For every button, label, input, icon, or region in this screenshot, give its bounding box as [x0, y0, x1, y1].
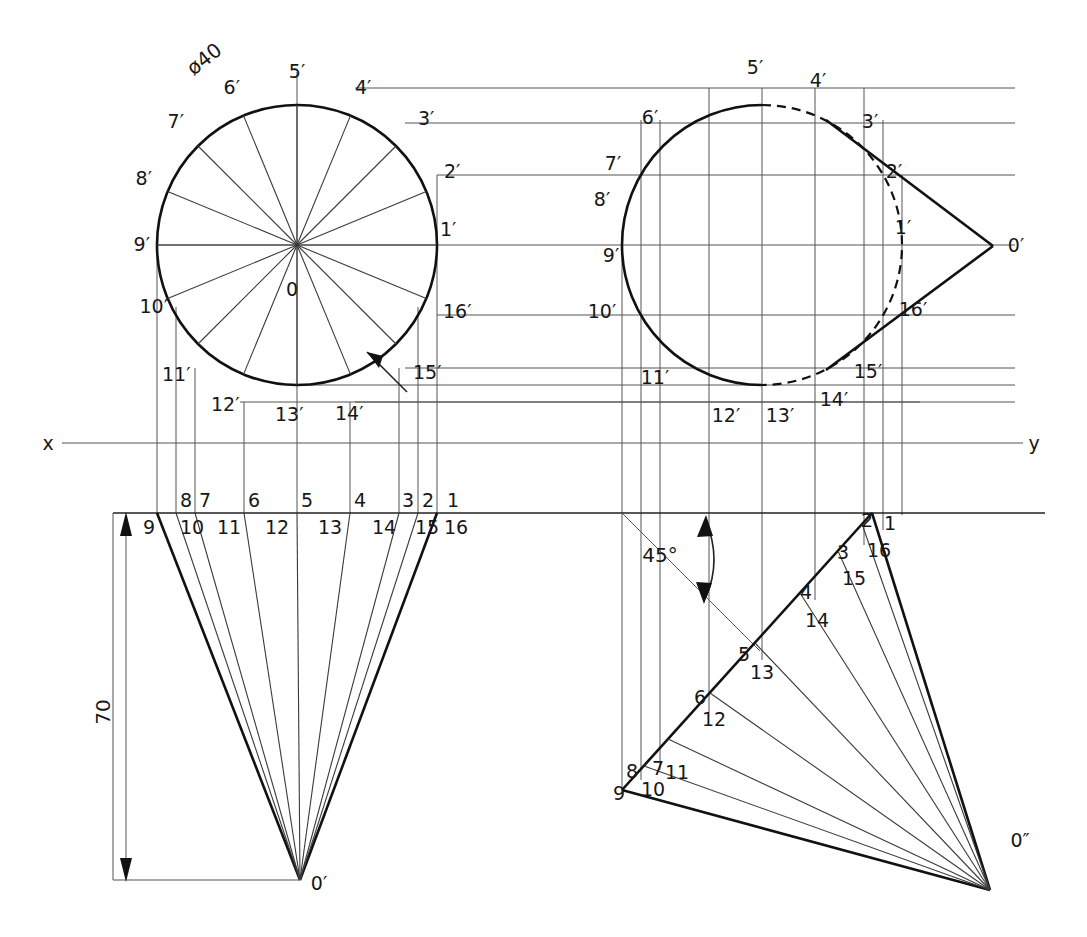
point-label: 13′ — [766, 404, 795, 426]
diameter-label: ø40 — [182, 38, 226, 80]
point-label: 11 — [665, 761, 689, 783]
point-label: 14 — [805, 609, 829, 631]
point-label: 11′ — [641, 366, 670, 388]
point-label: 15 — [842, 567, 866, 589]
front-generators — [176, 513, 418, 880]
point-label: 2 — [422, 489, 434, 511]
point-label: 8 — [626, 760, 638, 782]
point-label: 10′ — [140, 295, 169, 317]
point-label: 11′ — [162, 363, 191, 385]
labels-layer: ø40 70 45° x y 0 0′ 0′ 0″ 1′ 2′ 3′ 4′ 5′… — [42, 38, 1039, 894]
top-view-point-labels: 1′ 2′ 3′ 4′ 5′ 6′ 7′ 8′ 9′ 10′ 11′ 12′ 1… — [134, 60, 472, 425]
point-label: 12 — [265, 516, 289, 538]
point-label: 3′ — [418, 107, 434, 129]
drawing-sheet: ø40 70 45° x y 0 0′ 0′ 0″ 1′ 2′ 3′ 4′ 5′… — [0, 0, 1087, 937]
y-axis-label: y — [1028, 432, 1039, 454]
point-label: 1 — [447, 489, 459, 511]
x-axis-label: x — [42, 432, 53, 454]
point-label: 1 — [884, 512, 896, 534]
point-label: 4 — [800, 581, 812, 603]
point-label: 12′ — [211, 393, 240, 415]
radial-generators — [157, 105, 437, 385]
top-view-circle — [157, 105, 437, 392]
point-label: 3′ — [862, 110, 878, 132]
point-label: 1′ — [895, 216, 911, 238]
point-label: 9′ — [134, 233, 150, 255]
technical-drawing-canvas: ø40 70 45° x y 0 0′ 0′ 0″ 1′ 2′ 3′ 4′ 5′… — [0, 0, 1087, 937]
point-label: 6 — [248, 489, 260, 511]
point-label: 6′ — [642, 106, 658, 128]
point-label: 13 — [318, 516, 342, 538]
angle-45-indicator — [696, 515, 714, 604]
angle-45-label: 45° — [642, 543, 677, 567]
point-label: 14 — [372, 516, 396, 538]
point-label: 9 — [613, 782, 625, 804]
point-label: 7′ — [605, 152, 621, 174]
auxiliary-view-cone — [622, 513, 990, 890]
front-view-bottom-labels: 9 10 11 12 13 14 15 16 — [143, 516, 468, 538]
point-label: 16′ — [443, 300, 472, 322]
point-label: 16 — [444, 516, 468, 538]
point-label: 5′ — [747, 56, 763, 78]
point-label: 7′ — [168, 110, 184, 132]
point-label: 8 — [180, 489, 192, 511]
point-label: 13 — [750, 661, 774, 683]
point-label: 15′ — [413, 361, 442, 383]
point-label: 6 — [694, 686, 706, 708]
point-label: 5 — [301, 489, 313, 511]
front-view-apex-label: 0′ — [311, 872, 327, 894]
point-label: 3 — [402, 489, 414, 511]
point-label: 14′ — [820, 388, 849, 410]
point-label: 2′ — [886, 160, 902, 182]
point-label: 7 — [199, 489, 211, 511]
point-label: 12′ — [712, 404, 741, 426]
point-label: 8′ — [136, 167, 152, 189]
front-view-top-labels: 1 2 3 4 5 6 7 8 — [180, 489, 459, 511]
point-label: 3 — [837, 541, 849, 563]
point-label: 2′ — [444, 160, 460, 182]
side-view-apex-label: 0′ — [1008, 234, 1024, 256]
point-label: 4′ — [355, 76, 371, 98]
point-label: 13′ — [275, 403, 304, 425]
side-view-point-labels: 5′ 4′ 3′ 2′ 1′ 16′ 15′ 14′ 13′ 12′ 11′ 1… — [588, 56, 928, 426]
point-label: 8′ — [594, 188, 610, 210]
vertical-projectors-group — [157, 72, 902, 790]
point-label: 5 — [738, 643, 750, 665]
point-label: 4′ — [810, 69, 826, 91]
diameter-leader-arrow — [367, 352, 407, 392]
point-label: 14′ — [335, 402, 364, 424]
point-label: 5′ — [289, 60, 305, 82]
point-label: 2 — [861, 509, 873, 531]
point-label: 15′ — [854, 360, 883, 382]
front-view-cone — [113, 513, 1045, 880]
point-label: 7 — [652, 757, 664, 779]
auxiliary-view-apex-label: 0″ — [1010, 829, 1029, 851]
point-label: 6′ — [224, 76, 240, 98]
height-dimension-label: 70 — [91, 699, 115, 724]
point-label: 10 — [641, 778, 665, 800]
point-label: 12 — [702, 708, 726, 730]
point-label: 9 — [143, 516, 155, 538]
point-label: 10′ — [588, 300, 617, 322]
point-label: 16 — [867, 539, 891, 561]
point-label: 1′ — [440, 218, 456, 240]
point-label: 9′ — [603, 244, 619, 266]
point-label: 16′ — [899, 298, 928, 320]
point-label: 15 — [415, 516, 439, 538]
top-view-center-label: 0 — [286, 278, 298, 300]
point-label: 10 — [180, 516, 204, 538]
point-label: 4 — [354, 489, 366, 511]
point-label: 11 — [217, 516, 241, 538]
